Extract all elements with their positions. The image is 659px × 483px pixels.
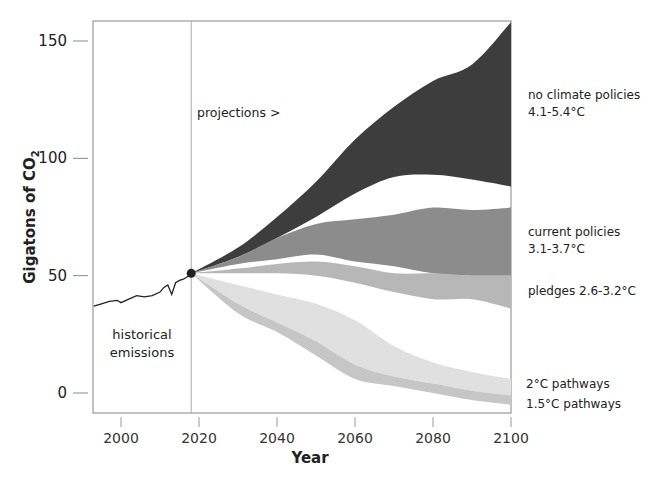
y-tick-label: 50 <box>48 267 67 285</box>
label-1-5c-pathways: 1.5°C pathways <box>526 397 621 411</box>
label-current-policies: current policies <box>528 225 620 239</box>
historical-label-line1: historical <box>112 327 171 342</box>
label-pledges: pledges 2.6-3.2°C <box>528 284 636 298</box>
emissions-chart: 050100150 200020202040206020802100 Year … <box>0 0 659 483</box>
x-tick-label: 2040 <box>259 430 295 446</box>
label-2c-pathways: 2°C pathways <box>526 377 610 391</box>
projection-bands <box>191 22 511 405</box>
label-no-climate-policies-range: 4.1-5.4°C <box>528 105 585 119</box>
y-axis: 050100150 <box>38 32 88 402</box>
y-tick-label: 0 <box>57 384 67 402</box>
y-tick-label: 100 <box>38 149 67 167</box>
projections-label: projections > <box>197 105 280 120</box>
x-tick-label: 2060 <box>337 430 373 446</box>
x-axis: 200020202040206020802100 <box>103 417 529 446</box>
y-axis-title-main: Gigatons of CO <box>21 157 39 283</box>
x-tick-label: 2080 <box>415 430 451 446</box>
y-tick-label: 150 <box>38 32 67 50</box>
x-tick-label: 2020 <box>181 430 217 446</box>
projection-start-marker <box>187 269 196 278</box>
label-current-policies-range: 3.1-3.7°C <box>528 242 585 256</box>
label-no-climate-policies: no climate policies <box>528 88 640 102</box>
x-tick-label: 2100 <box>493 430 529 446</box>
y-axis-title-subscript: 2 <box>30 150 41 157</box>
x-tick-label: 2000 <box>103 430 139 446</box>
historical-emissions-line <box>94 273 192 306</box>
y-axis-title: Gigatons of CO2 <box>21 150 41 283</box>
historical-label-line2: emissions <box>110 345 175 360</box>
band-current-policies <box>191 207 511 275</box>
x-axis-title: Year <box>290 449 329 467</box>
